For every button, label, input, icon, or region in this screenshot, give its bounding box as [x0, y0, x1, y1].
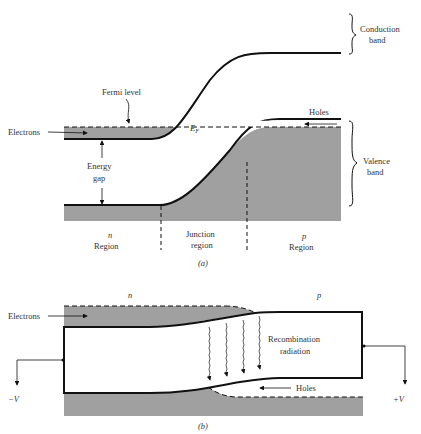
- junction-label-1: Junction: [186, 229, 216, 239]
- p-label-b: p: [316, 290, 321, 300]
- holes-label-b: Holes: [296, 383, 316, 393]
- valence-brace: [349, 121, 357, 206]
- valence-label-2: band: [367, 167, 384, 177]
- conduction-brace: [349, 14, 356, 54]
- electrons-label-b: Electrons: [8, 311, 40, 321]
- recombination-label-2: radiation: [280, 346, 311, 356]
- figure-b-caption: (b): [198, 421, 208, 431]
- energy-gap-label-1: Energy: [87, 161, 112, 171]
- conduction-label-1: Conduction: [360, 24, 400, 34]
- junction-label-2: region: [191, 240, 213, 250]
- conduction-label-2: band: [369, 35, 386, 45]
- ef-label: EF: [189, 123, 199, 134]
- n-region-word: Region: [94, 241, 119, 251]
- p-region-word: Region: [289, 242, 314, 252]
- minus-v-label: −V: [8, 394, 21, 404]
- pn-junction-diagram: Conduction band Valence band Fermi level…: [0, 0, 421, 434]
- valence-label-1: Valence: [363, 156, 390, 166]
- energy-gap-label-2: gap: [93, 173, 105, 183]
- p-region-letter: p: [301, 231, 306, 241]
- n-label-b: n: [128, 290, 132, 300]
- figure-b: Recombination radiation n p Electrons Ho…: [8, 290, 406, 431]
- figure-a: Conduction band Valence band Fermi level…: [8, 14, 400, 268]
- fermi-level-arrow: [126, 99, 129, 123]
- minus-v-lead: [17, 360, 63, 385]
- electrons-label: Electrons: [8, 127, 40, 137]
- recombination-label-1: Recombination: [268, 334, 321, 344]
- n-region-letter: n: [108, 230, 112, 240]
- fermi-level-label: Fermi level: [102, 87, 142, 97]
- valence-band-fill: [64, 127, 341, 221]
- plus-v-lead: [364, 346, 405, 384]
- plus-v-label: +V: [393, 394, 406, 404]
- figure-a-caption: (a): [198, 258, 208, 268]
- holes-label: Holes: [309, 107, 329, 117]
- hole-fermi-curve: [208, 387, 363, 397]
